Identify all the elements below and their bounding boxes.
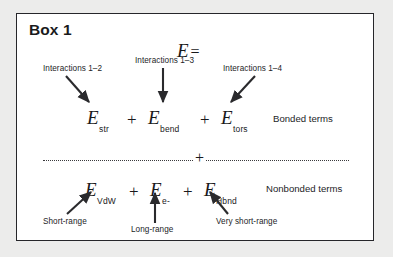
annotation-interactions-1-2: Interactions 1–2 [43,64,102,73]
term-e-tors-symbol: E [221,107,233,128]
term-e-bend: Ebend [148,107,179,131]
term-e-vdw-subscript: VdW [97,196,116,206]
term-e-bend-subscript: bend [160,124,179,134]
page-title: Box 1 [29,21,72,39]
term-e-electrostatic-subscript: e- [162,196,170,206]
annotation-interactions-1-3: Interactions 1–3 [135,56,194,65]
annotation-long-range: Long-range [131,225,173,234]
operator-plus-nonbonded-2: + [183,182,193,202]
term-e-tors: Etors [221,107,247,131]
box-container: Box 1 E= Interactions 1–2 Interactions 1… [16,13,374,241]
term-e-vdw-symbol: E [85,179,97,200]
arrow-to-e-tors [231,76,255,102]
annotation-short-range: Short-range [43,217,87,226]
term-e-electrostatic-symbol: E [150,179,162,200]
operator-plus-nonbonded-1: + [129,182,139,202]
figure-canvas: Box 1 E= Interactions 1–2 Interactions 1… [0,0,393,257]
annotation-interactions-1-4: Interactions 1–4 [223,64,282,73]
term-e-bend-symbol: E [148,107,160,128]
term-e-electrostatic: Ee- [150,179,169,203]
term-e-str: Estr [87,107,108,131]
label-nonbonded-terms: Nonbonded terms [266,183,342,194]
term-e-hbnd: EHbnd [204,179,236,203]
term-e-str-symbol: E [87,107,99,128]
operator-plus-divider: + [193,150,206,166]
term-e-hbnd-subscript: Hbnd [216,196,237,206]
annotation-very-short-range: Very short-range [216,217,277,226]
term-e-tors-subscript: tors [233,124,248,134]
term-e-hbnd-symbol: E [204,179,216,200]
term-e-str-subscript: str [99,124,109,134]
label-bonded-terms: Bonded terms [273,113,333,124]
term-e-vdw: EVdW [85,179,115,203]
arrow-to-e-str [66,76,89,102]
operator-plus-bonded-2: + [200,110,210,130]
operator-plus-bonded-1: + [127,110,137,130]
